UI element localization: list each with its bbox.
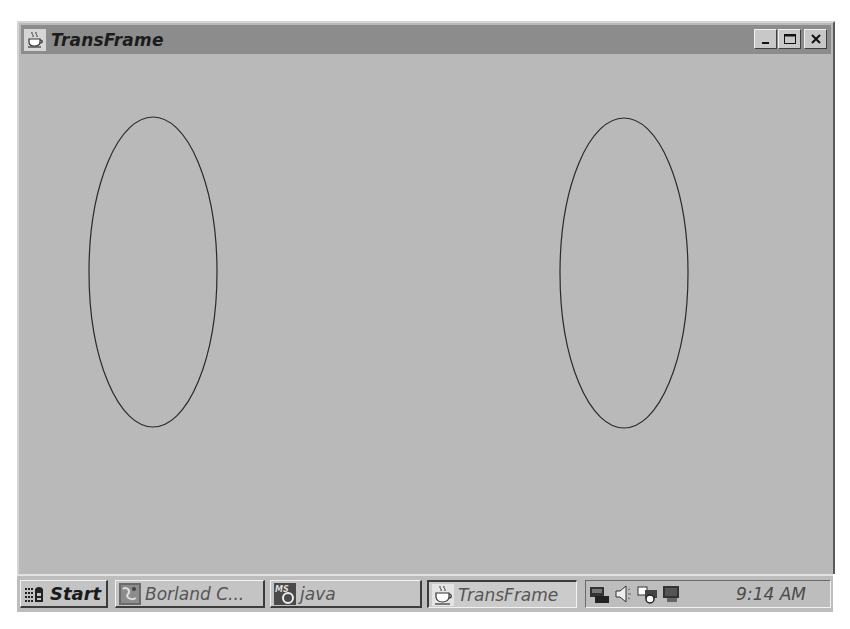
task-java[interactable]: MS java <box>270 580 422 608</box>
borland-app-icon <box>119 583 141 605</box>
system-tray: 9:14 AM <box>585 580 831 608</box>
title-bar[interactable]: TransFrame <box>21 25 831 54</box>
window-title: TransFrame <box>51 30 164 50</box>
network-icon[interactable] <box>589 584 610 604</box>
display-icon[interactable] <box>661 584 682 604</box>
ms-dos-icon: MS <box>274 583 296 605</box>
start-label: Start <box>50 583 101 604</box>
close-button[interactable] <box>804 29 827 49</box>
clock[interactable]: 9:14 AM <box>736 584 806 604</box>
transframe-window: TransFrame <box>17 21 835 574</box>
task-borland[interactable]: Borland C... <box>115 580 265 608</box>
minimize-button[interactable] <box>754 29 777 49</box>
task-label: TransFrame <box>458 585 558 605</box>
maximize-button[interactable] <box>778 29 801 49</box>
drawing-canvas <box>19 54 833 574</box>
start-button[interactable]: Start <box>20 580 108 608</box>
volume-icon[interactable] <box>613 584 634 604</box>
windows-logo-icon <box>24 583 46 605</box>
task-label: java <box>300 584 336 604</box>
left-ellipse <box>89 117 217 427</box>
task-label: Borland C... <box>145 584 244 604</box>
maximize-icon <box>783 33 797 45</box>
client-area[interactable] <box>19 54 833 574</box>
minimize-icon <box>760 33 772 45</box>
java-coffee-cup-icon[interactable] <box>24 29 46 51</box>
close-icon <box>810 33 822 45</box>
task-transframe[interactable]: TransFrame <box>427 580 577 608</box>
java-coffee-cup-icon <box>432 584 454 606</box>
scheduler-icon[interactable] <box>637 584 658 604</box>
window-controls <box>753 29 827 49</box>
right-ellipse <box>560 118 688 428</box>
taskbar: Start Borland C... MS java TransFrame <box>17 574 833 612</box>
